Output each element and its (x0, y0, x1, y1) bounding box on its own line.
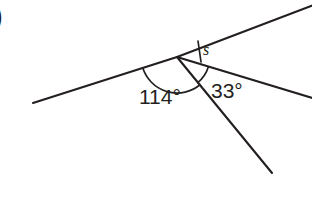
lower-right-ray (177, 57, 272, 173)
arc-33-degrees (198, 67, 209, 83)
right-ray (177, 57, 312, 99)
s-angle-tick (198, 41, 201, 62)
angle-label-114: 114° (139, 86, 181, 107)
angle-label-33: 33° (211, 80, 243, 101)
angle-label-s: s (203, 42, 209, 58)
diagram-canvas: ) 114° 33° s (0, 0, 312, 213)
upper-right-ray (177, 4, 312, 57)
